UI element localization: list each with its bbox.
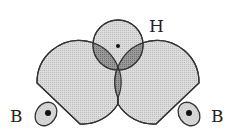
bhb-three-center-bond-diagram: H B B bbox=[0, 0, 236, 136]
left-boron-atom bbox=[31, 98, 62, 130]
boron-right-label: B bbox=[211, 106, 224, 126]
hydrogen-nucleus-icon bbox=[116, 44, 120, 48]
left-boron-nucleus-icon bbox=[45, 110, 51, 116]
boron-left-label: B bbox=[10, 106, 23, 126]
hydrogen-label: H bbox=[149, 16, 164, 36]
right-boron-nucleus-icon bbox=[186, 110, 192, 116]
